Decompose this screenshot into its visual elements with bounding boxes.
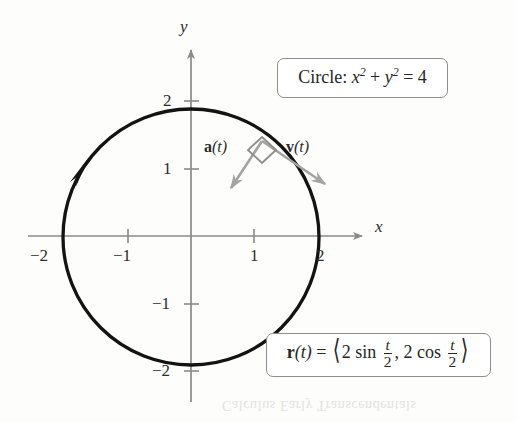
vector-term2-fn: cos bbox=[417, 342, 441, 362]
vector-comma: , bbox=[395, 342, 400, 362]
scan-bleed-through-artifact: Calculus Early Transcendentals bbox=[222, 393, 512, 413]
acceleration-vector-arrow bbox=[231, 141, 262, 188]
circle-equation-prefix: Circle: bbox=[298, 67, 347, 87]
vector-term1-fn: sin bbox=[355, 342, 376, 362]
acceleration-symbol: a bbox=[204, 138, 212, 155]
x-tick-label-pos1: 1 bbox=[250, 247, 259, 264]
vector-term2-numerator: t bbox=[448, 337, 456, 354]
vector-term2-denominator: 2 bbox=[447, 354, 459, 370]
x-tick-label-neg2: −2 bbox=[30, 247, 48, 264]
circle-equation-y-exponent: 2 bbox=[393, 65, 399, 79]
vector-term1-coeff: 2 bbox=[342, 342, 351, 362]
right-angle-marker-icon bbox=[248, 137, 276, 163]
vector-close-bracket: ⟩ bbox=[461, 340, 469, 360]
y-axis-label: y bbox=[180, 18, 188, 35]
circle-equation-x-exponent: 2 bbox=[360, 65, 366, 79]
vector-term1-numerator: t bbox=[384, 337, 392, 354]
y-tick-label-pos1: 1 bbox=[163, 160, 172, 177]
velocity-vector-label: v(t) bbox=[286, 139, 309, 155]
vector-term2-fraction: t2 bbox=[447, 337, 459, 370]
vector-function-equals: = bbox=[316, 342, 326, 362]
x-tick-label-pos2: 2 bbox=[316, 247, 325, 264]
circle-equation-equals: = bbox=[403, 67, 413, 87]
y-tick-label-neg2: −2 bbox=[152, 362, 170, 379]
figure-container: −2 −1 1 2 2 1 −1 −2 x y a(t) v(t) Circle… bbox=[0, 0, 516, 422]
velocity-arg: (t) bbox=[294, 138, 309, 155]
vector-function-text: r(t) = ⟨2 sin t2, 2 cos t2⟩ bbox=[287, 338, 470, 371]
y-tick-label-neg1: −1 bbox=[152, 295, 170, 312]
y-tick-label-pos2: 2 bbox=[163, 92, 172, 109]
orientation-arrowhead-icon bbox=[70, 157, 89, 187]
circle-equation-text: Circle: x2 + y2 = 4 bbox=[298, 67, 427, 88]
circle-equation-x: x bbox=[352, 67, 360, 87]
circle-equation-y: y bbox=[385, 67, 393, 87]
vector-open-bracket: ⟨ bbox=[333, 340, 341, 360]
circle-equation-plus: + bbox=[370, 67, 380, 87]
acceleration-arg: (t) bbox=[212, 138, 227, 155]
vector-function-arg: (t) bbox=[295, 342, 312, 362]
circle-equation-value: 4 bbox=[418, 67, 427, 87]
vector-term2-coeff: 2 bbox=[404, 342, 413, 362]
vector-function-symbol: r bbox=[287, 342, 295, 362]
vector-term1-denominator: 2 bbox=[382, 354, 394, 370]
vector-term1-fraction: t2 bbox=[382, 337, 394, 370]
velocity-symbol: v bbox=[286, 138, 294, 155]
callout-circle-equation: Circle: x2 + y2 = 4 bbox=[277, 58, 448, 98]
acceleration-vector-label: a(t) bbox=[204, 139, 227, 155]
callout-vector-function: r(t) = ⟨2 sin t2, 2 cos t2⟩ bbox=[266, 333, 491, 377]
x-axis-label: x bbox=[375, 218, 383, 235]
x-tick-label-neg1: −1 bbox=[113, 247, 131, 264]
